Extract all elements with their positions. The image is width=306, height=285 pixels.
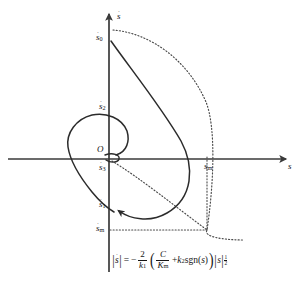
- point-label-s3-dot: ˙s3: [99, 163, 106, 173]
- origin-label: O: [97, 145, 104, 154]
- point-label-s1-dot: ˙s1: [99, 200, 106, 210]
- axis-group: [8, 14, 286, 272]
- axis-label-s-dot: ˙s: [117, 12, 121, 21]
- switching-parabola-upper: [113, 30, 244, 240]
- point-label-sm: sm: [204, 162, 212, 172]
- point-label-s0-dot: ˙s0: [96, 33, 103, 43]
- switching-parabola-lower: [112, 161, 207, 230]
- phase-portrait-figure: [0, 0, 306, 285]
- solid-trajectory: [111, 41, 190, 219]
- point-label-s2-dot: ˙s2: [99, 102, 106, 112]
- axis-label-s: s: [288, 162, 292, 171]
- point-label-sm-dot: ˙sm: [96, 224, 104, 234]
- left-loop: [68, 114, 128, 212]
- equation-expression: |˙s| = − 2 k1 ( C Km + k2sgn(s) ) |s| 1 …: [112, 250, 227, 271]
